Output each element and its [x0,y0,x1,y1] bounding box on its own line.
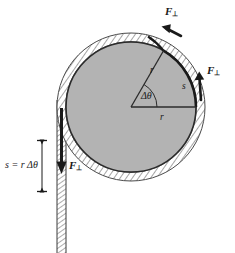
force-label-right: F⊥ [207,65,220,77]
arc-length-relation-label: s = r Δθ [5,160,38,170]
radius-label-lower: r [160,113,164,123]
force-label-rope: F⊥ [69,160,82,172]
force-label-top: F⊥ [165,6,178,18]
physics-diagram-canvas [0,0,235,253]
radius-label-upper: r [150,66,154,76]
angle-label: Δθ [141,91,152,101]
arc-label-s: s [182,82,186,92]
